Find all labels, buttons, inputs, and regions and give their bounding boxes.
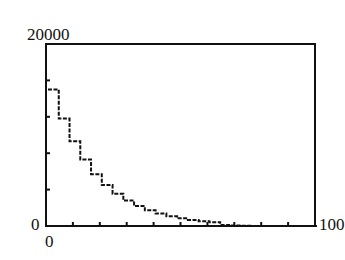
y-max-label: 20000 [27,26,70,43]
x-min-label: 0 [45,233,54,250]
plot-frame [46,44,315,226]
x-max-label: 100 [319,216,345,233]
y-min-label: 0 [31,216,40,233]
decay-curve [48,90,317,227]
